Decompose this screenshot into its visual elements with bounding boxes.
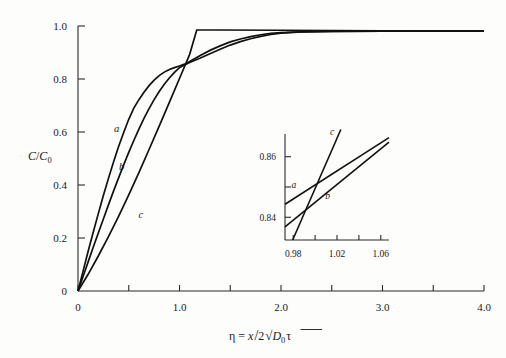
inset-data-curves: [285, 129, 389, 240]
y-axis-title: C/C0: [28, 149, 52, 165]
x-title-equals: =: [238, 329, 245, 343]
figure-container: 00.20.40.60.81.0 01.02.03.04.0 abc C/C0 …: [0, 0, 506, 358]
inset-curve-label-b: b: [325, 191, 330, 201]
x-tick-label: 4.0: [477, 301, 491, 313]
inset-y-tick-label: 0.84: [259, 213, 276, 223]
y-tick-label: 0.2: [53, 232, 67, 244]
inset-x-tick-label: 1.06: [372, 249, 389, 259]
y-tick-label: 0.6: [53, 126, 67, 138]
x-axis-ticks: [78, 285, 484, 291]
inset-x-axis-ticks: [293, 235, 381, 240]
x-tick-label: 2.0: [274, 301, 288, 313]
curve-c: [78, 30, 484, 291]
inset-y-axis-ticks: [285, 157, 291, 218]
inset-plot: 0.840.86 0.981.021.06 abc: [259, 127, 389, 259]
x-title-eta: η: [229, 329, 235, 343]
inset-curve-c: [293, 129, 341, 240]
y-axis-ticks: [78, 26, 85, 238]
x-title-two: 2: [258, 329, 264, 343]
x-title-d-var: D: [271, 329, 281, 343]
y-tick-label: 1.0: [53, 20, 67, 32]
inset-y-tick-label: 0.86: [259, 152, 276, 162]
y-axis-tick-labels: 00.20.40.60.81.0: [53, 20, 67, 297]
data-curves: [78, 30, 484, 291]
main-axes: [78, 26, 484, 291]
x-tick-label: 1.0: [173, 301, 187, 313]
inset-x-tick-label: 1.02: [329, 249, 346, 259]
x-axis-title: η=x/2√D0τ: [229, 328, 322, 345]
x-tick-label: 0: [75, 301, 81, 313]
curve-label-b: b: [119, 161, 124, 172]
x-title-tau: τ: [286, 329, 291, 343]
x-title-x-var: x: [247, 329, 254, 343]
inset-curve-label-a: a: [291, 180, 296, 190]
curve-label-a: a: [114, 123, 119, 134]
x-tick-label: 3.0: [376, 301, 390, 313]
inset-y-axis-tick-labels: 0.840.86: [259, 152, 276, 223]
y-tick-label: 0.4: [53, 179, 67, 191]
inset-x-tick-label: 0.98: [285, 249, 302, 259]
x-axis-tick-labels: 01.02.03.04.0: [75, 301, 491, 313]
inset-curve-a: [285, 138, 389, 205]
curve-b: [78, 31, 484, 291]
inset-curve-labels: abc: [291, 127, 335, 201]
curve-label-c: c: [139, 209, 144, 220]
inset-curve-label-c: c: [330, 127, 335, 137]
y-title-subscript: 0: [47, 155, 51, 165]
inset-x-axis-tick-labels: 0.981.021.06: [285, 249, 389, 259]
diffusion-profile-chart: 00.20.40.60.81.0 01.02.03.04.0 abc C/C0 …: [0, 0, 506, 358]
x-title-d-sub: 0: [281, 335, 285, 345]
curve-a: [78, 31, 484, 291]
y-tick-label: 0.8: [53, 73, 67, 85]
inset-curve-b: [285, 142, 389, 227]
svg-text:C/C0: C/C0: [28, 149, 52, 165]
svg-text:η=x/2√D0τ: η=x/2√D0τ: [229, 328, 291, 345]
y-tick-label: 0: [62, 285, 68, 297]
